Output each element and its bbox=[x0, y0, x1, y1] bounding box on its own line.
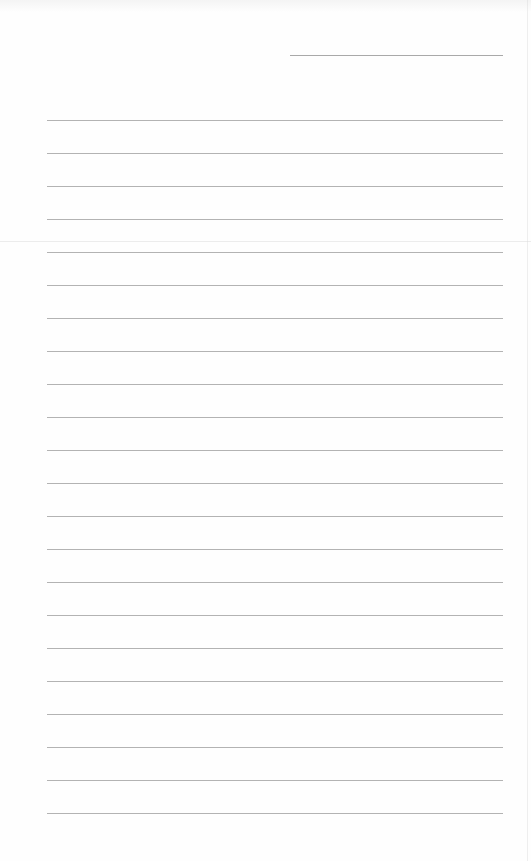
ruled-line bbox=[47, 450, 503, 451]
ruled-line bbox=[47, 516, 503, 517]
ruled-line bbox=[47, 615, 503, 616]
bleed-through-text bbox=[0, 0, 531, 12]
ruled-line bbox=[47, 153, 503, 154]
ruled-line bbox=[47, 351, 503, 352]
ruled-line bbox=[47, 681, 503, 682]
ruled-line bbox=[47, 384, 503, 385]
page-edge bbox=[527, 0, 528, 861]
ruled-line bbox=[47, 813, 503, 814]
ruled-line bbox=[47, 120, 503, 121]
ruled-line bbox=[47, 747, 503, 748]
ruled-line bbox=[47, 252, 503, 253]
ruled-line bbox=[47, 219, 503, 220]
ruled-line bbox=[47, 549, 503, 550]
ruled-line bbox=[47, 417, 503, 418]
ruled-line bbox=[47, 186, 503, 187]
ruled-line bbox=[47, 483, 503, 484]
ruled-line bbox=[47, 318, 503, 319]
ruled-line bbox=[47, 285, 503, 286]
fold-seam bbox=[0, 241, 531, 242]
lined-paper-page bbox=[0, 0, 531, 861]
ruled-line bbox=[47, 648, 503, 649]
ruled-line bbox=[47, 582, 503, 583]
header-date-line bbox=[290, 55, 503, 56]
ruled-line bbox=[47, 780, 503, 781]
ruled-line bbox=[47, 714, 503, 715]
